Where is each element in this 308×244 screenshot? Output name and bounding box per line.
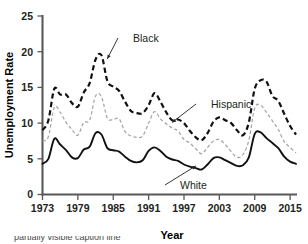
x-tick-label-1: 1979 (66, 202, 90, 214)
y-tick-label-4: 20 (21, 46, 33, 58)
x-tick-label-0: 1973 (31, 202, 55, 214)
y-tick-label-2: 10 (21, 117, 33, 129)
unemployment-rate-line-chart: Unemployment Rate 0510152025 19731979198… (0, 0, 308, 244)
x-tick-label-7: 2015 (278, 202, 302, 214)
y-tick-label-3: 15 (21, 81, 33, 93)
x-axis-ticks: 19731979198519911997200320092015 (31, 195, 302, 215)
annotation-label-black: Black (133, 32, 159, 44)
y-tick-label-1: 5 (27, 153, 33, 165)
series-line-black (43, 54, 297, 141)
annotation-label-white: White (180, 179, 207, 191)
y-axis-title: Unemployment Rate (3, 52, 15, 158)
annotation-label-hispanic: Hispanic (211, 98, 251, 110)
x-tick-label-6: 2009 (243, 202, 267, 214)
data-series-group (43, 54, 297, 170)
y-tick-label-5: 25 (21, 10, 33, 22)
series-annotations: BlackHispanicWhite (107, 32, 251, 191)
series-line-hispanic (43, 93, 297, 157)
caption-text: partially visible caption line (14, 236, 121, 242)
series-line-white (43, 131, 297, 169)
x-tick-label-3: 1991 (137, 202, 161, 214)
leader-line-hispanic (172, 104, 196, 122)
x-tick-label-4: 1997 (172, 202, 196, 214)
x-tick-label-2: 1985 (102, 202, 126, 214)
x-tick-label-5: 2003 (208, 202, 232, 214)
y-axis-ticks: 0510152025 (21, 10, 42, 201)
chart-figure: Unemployment Rate 0510152025 19731979198… (0, 0, 308, 244)
cropped-caption: partially visible caption line (0, 236, 308, 244)
y-tick-label-0: 0 (27, 188, 33, 200)
